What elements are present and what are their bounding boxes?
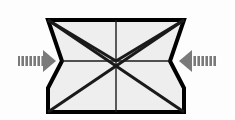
compression-diagram-svg bbox=[0, 0, 235, 120]
diagram-canvas bbox=[0, 0, 235, 120]
right-compression-arrow-shaft bbox=[192, 56, 217, 66]
left-compression-arrow-shaft bbox=[18, 56, 43, 66]
